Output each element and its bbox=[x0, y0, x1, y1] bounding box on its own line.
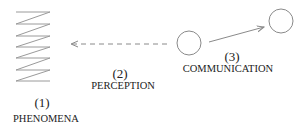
diagram-canvas: (1) PHENOMENA (2) PERCEPTION (3) COMMUNI… bbox=[0, 0, 307, 131]
communication-arrow-icon bbox=[209, 27, 264, 42]
phenomena-zigzag-icon bbox=[16, 12, 50, 81]
communication-label: COMMUNICATION bbox=[183, 63, 274, 74]
perception-number: (2) bbox=[112, 66, 127, 81]
sender-circle-icon bbox=[177, 31, 201, 55]
phenomena-label: PHENOMENA bbox=[13, 113, 79, 124]
communication-number: (3) bbox=[224, 49, 239, 64]
perception-label: PERCEPTION bbox=[91, 80, 155, 91]
receiver-circle-icon bbox=[269, 9, 293, 33]
phenomena-number: (1) bbox=[34, 95, 49, 110]
